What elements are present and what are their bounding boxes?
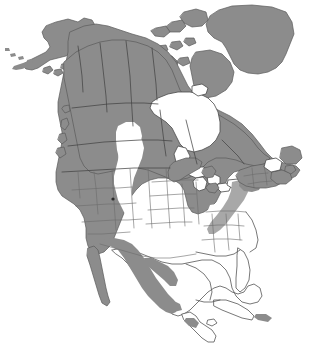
- range-map-figure: [0, 0, 332, 356]
- point-marker: [111, 197, 114, 200]
- north-america-map-svg: [0, 0, 332, 356]
